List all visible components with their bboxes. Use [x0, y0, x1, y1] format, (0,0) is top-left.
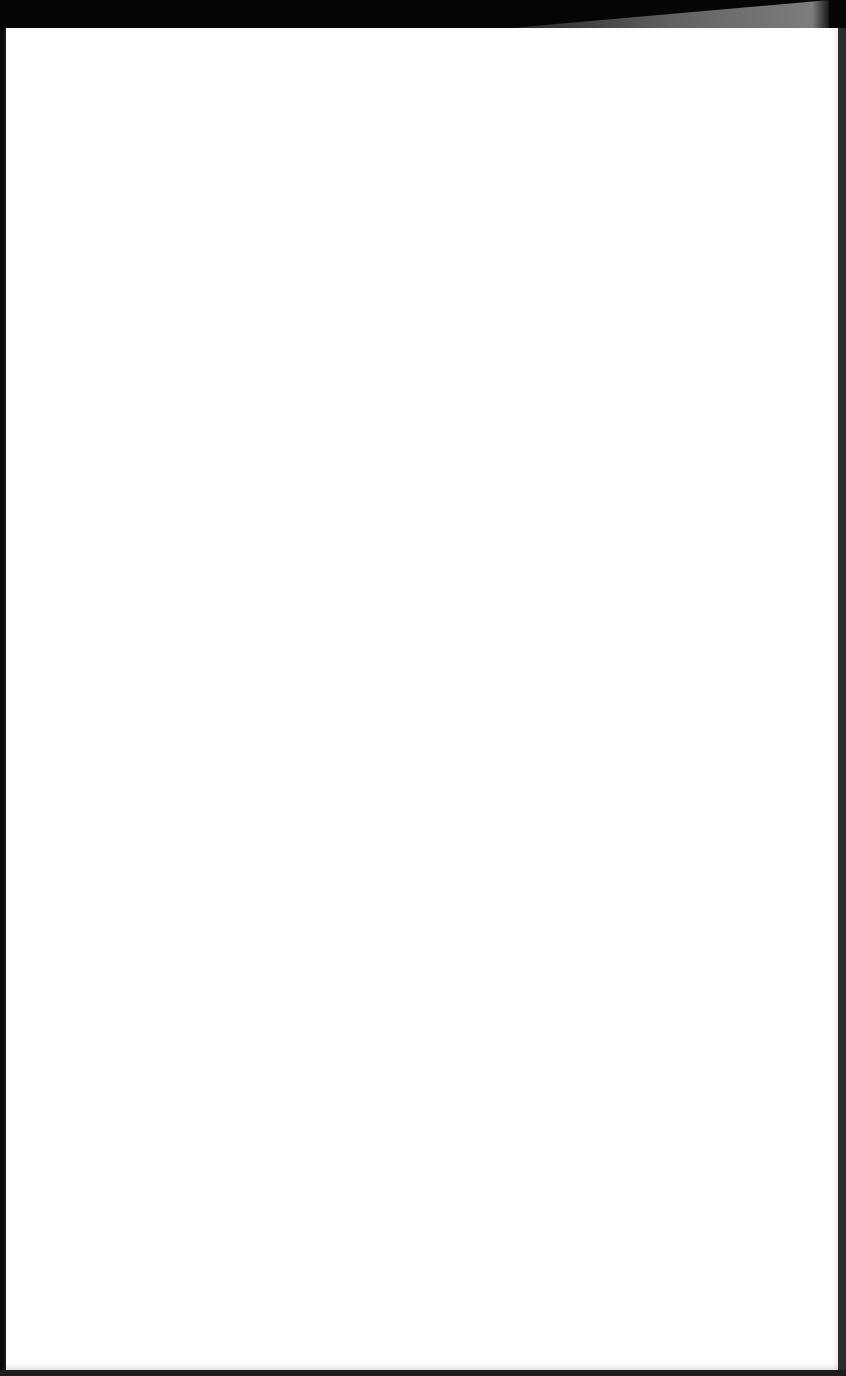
scanner-bottom-edge	[0, 1370, 846, 1376]
blank-paper-sheet	[4, 28, 840, 1370]
scanner-right-edge	[838, 28, 846, 1376]
